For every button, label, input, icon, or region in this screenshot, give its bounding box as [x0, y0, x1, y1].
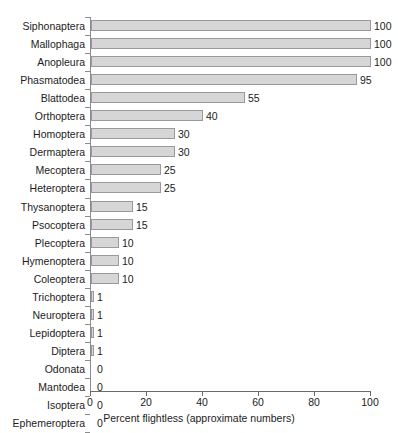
- bar-row: Psocoptera15: [0, 216, 398, 234]
- bar-value-label: 10: [122, 270, 134, 288]
- bar: [91, 110, 203, 121]
- bar: [91, 291, 94, 302]
- bar-row: Mecoptera25: [0, 161, 398, 179]
- bar-value-label: 15: [136, 198, 148, 216]
- category-label: Psocoptera: [32, 216, 85, 234]
- category-label: Mallophaga: [31, 35, 85, 53]
- category-label: Anopleura: [37, 53, 85, 71]
- bar-row: Dermaptera30: [0, 143, 398, 161]
- bar-row: Siphonaptera100: [0, 17, 398, 35]
- category-label: Phasmatodea: [20, 71, 85, 89]
- category-label: Heteroptera: [30, 179, 85, 197]
- y-axis-tick: [85, 342, 90, 343]
- bar: [91, 273, 119, 284]
- plot-area: Siphonaptera100Mallophaga100Anopleura100…: [0, 0, 398, 392]
- category-label: Trichoptera: [32, 288, 85, 306]
- category-label: Homoptera: [33, 125, 85, 143]
- x-axis-tick-label: 20: [126, 396, 166, 408]
- bar-row: Homoptera30: [0, 125, 398, 143]
- bar-row: Thysanoptera15: [0, 198, 398, 216]
- bar: [91, 56, 371, 67]
- x-axis-tick-label: 60: [238, 396, 278, 408]
- bar: [91, 237, 119, 248]
- y-axis-tick: [85, 360, 90, 361]
- y-axis-tick: [85, 270, 90, 271]
- bar-row: Orthoptera40: [0, 107, 398, 125]
- y-axis-tick: [85, 161, 90, 162]
- bar: [91, 327, 94, 338]
- category-label: Mantodea: [38, 378, 85, 396]
- y-axis-tick: [85, 252, 90, 253]
- bar-value-label: 30: [178, 143, 190, 161]
- bar-row: Mantodea0: [0, 378, 398, 396]
- bar: [91, 345, 94, 356]
- y-axis-tick: [85, 143, 90, 144]
- bar-value-label: 10: [122, 234, 134, 252]
- y-axis-tick: [85, 198, 90, 199]
- y-axis-tick: [85, 234, 90, 235]
- category-label: Thysanoptera: [21, 198, 85, 216]
- y-axis-tick: [85, 179, 90, 180]
- bar-value-label: 25: [164, 161, 176, 179]
- category-label: Odonata: [45, 360, 85, 378]
- bar-value-label: 0: [97, 378, 103, 396]
- bar-row: Mallophaga100: [0, 35, 398, 53]
- bar-value-label: 25: [164, 179, 176, 197]
- bar: [91, 182, 161, 193]
- y-axis-tick: [85, 17, 90, 18]
- bar: [91, 309, 94, 320]
- y-axis-tick: [85, 324, 90, 325]
- bar-value-label: 1: [97, 306, 103, 324]
- y-axis-tick: [85, 89, 90, 90]
- bar: [91, 219, 133, 230]
- bar-row: Coleoptera10: [0, 270, 398, 288]
- bar: [91, 128, 175, 139]
- bar-value-label: 1: [97, 324, 103, 342]
- y-axis-tick: [85, 107, 90, 108]
- bar-row: Anopleura100: [0, 53, 398, 71]
- bar-row: Plecoptera10: [0, 234, 398, 252]
- category-label: Orthoptera: [35, 107, 85, 125]
- category-label: Hymenoptera: [22, 252, 85, 270]
- y-axis-tick: [85, 53, 90, 54]
- bar-row: Lepidoptera1: [0, 324, 398, 342]
- bar-row: Hymenoptera10: [0, 252, 398, 270]
- bar-row: Blattodea55: [0, 89, 398, 107]
- y-axis-tick: [85, 288, 90, 289]
- bar-row: Neuroptera1: [0, 306, 398, 324]
- x-axis-title: Percent flightless (approximate numbers): [0, 412, 398, 424]
- bar-value-label: 100: [374, 53, 392, 71]
- bar: [91, 20, 371, 31]
- y-axis-tick: [85, 71, 90, 72]
- category-label: Dermaptera: [30, 143, 85, 161]
- bar: [91, 164, 161, 175]
- category-label: Mecoptera: [35, 161, 85, 179]
- x-axis-tick-label: 40: [182, 396, 222, 408]
- bar: [91, 38, 371, 49]
- bar-row: Heteroptera25: [0, 179, 398, 197]
- bar-row: Trichoptera1: [0, 288, 398, 306]
- bar-value-label: 1: [97, 288, 103, 306]
- y-axis-tick: [85, 35, 90, 36]
- category-label: Plecoptera: [35, 234, 85, 252]
- y-axis-tick: [85, 306, 90, 307]
- y-axis-tick: [85, 216, 90, 217]
- bar: [91, 92, 245, 103]
- bar-value-label: 1: [97, 342, 103, 360]
- category-label: Coleoptera: [34, 270, 85, 288]
- bar: [91, 74, 357, 85]
- y-axis-tick: [85, 125, 90, 126]
- bar-row: Diptera1: [0, 342, 398, 360]
- category-label: Diptera: [51, 342, 85, 360]
- category-label: Neuroptera: [32, 306, 85, 324]
- bar-value-label: 10: [122, 252, 134, 270]
- bar-value-label: 55: [248, 89, 260, 107]
- bar-value-label: 30: [178, 125, 190, 143]
- x-axis-tick-label: 0: [70, 396, 110, 408]
- bar-value-label: 95: [360, 71, 372, 89]
- category-label: Siphonaptera: [23, 17, 85, 35]
- bar: [91, 201, 133, 212]
- category-label: Lepidoptera: [30, 324, 85, 342]
- bar-row: Phasmatodea95: [0, 71, 398, 89]
